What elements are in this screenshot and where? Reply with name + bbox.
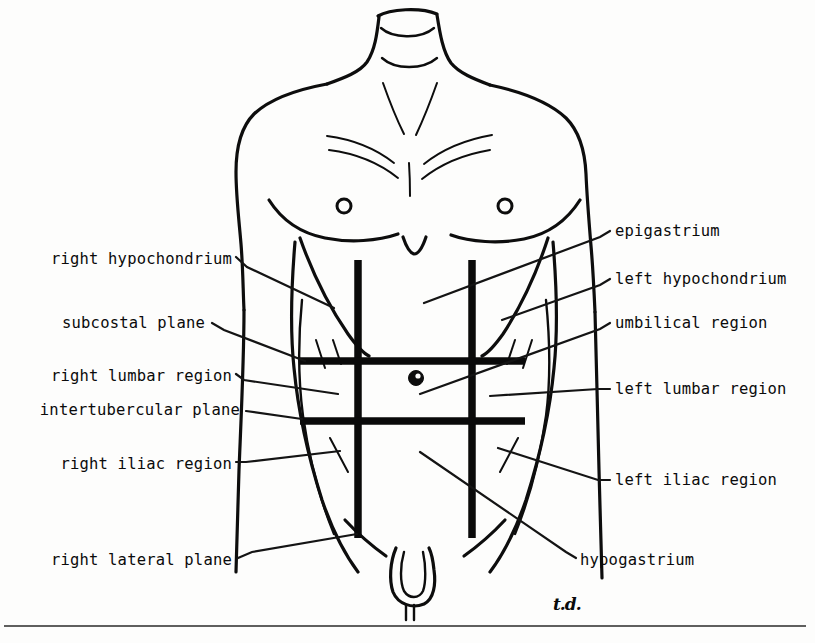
nipple-right-icon	[337, 199, 351, 213]
diagram-canvas: right hypochondrium subcostal plane righ…	[0, 0, 815, 643]
neck-tendon-left	[416, 83, 437, 135]
clavicle-right-upper	[327, 136, 394, 163]
label-right-iliac-region: right iliac region	[60, 457, 232, 473]
planes-grid-group	[300, 260, 525, 538]
umbilicus-highlight	[415, 373, 420, 378]
label-umbilical-region: umbilical region	[615, 316, 768, 332]
costal-margin-left	[482, 238, 548, 356]
flank-left-outline-b	[515, 300, 549, 534]
neck-tendon-right	[383, 83, 404, 134]
arm-left-outline	[595, 312, 602, 578]
label-right-hypochondrium: right hypochondrium	[51, 252, 232, 268]
mouth-line	[381, 28, 434, 36]
label-left-hypochondrium: left hypochondrium	[615, 272, 787, 288]
flank-right-outline-b	[299, 300, 334, 534]
clavicle-left-lower	[422, 150, 490, 179]
shoulder-right-outline	[236, 84, 327, 310]
xiphoid-notch	[403, 237, 426, 254]
leader-hypogastrium	[420, 452, 576, 558]
leader-intertubercular-plane	[246, 411, 302, 419]
neck-left-outline	[327, 17, 379, 84]
label-left-lumbar-region: left lumbar region	[615, 382, 787, 398]
umbilicus-icon	[409, 371, 424, 386]
genital-inner-outline	[401, 552, 425, 597]
leader-left-iliac-region	[498, 448, 610, 480]
pectoral-left-curve	[451, 200, 580, 242]
clavicle-right-lower	[329, 150, 398, 178]
arm-right-outline	[236, 310, 244, 572]
label-epigastrium: epigastrium	[615, 224, 720, 240]
label-right-lumbar-region: right lumbar region	[51, 369, 232, 385]
torso-outline-group	[236, 10, 602, 620]
label-subcostal-plane: subcostal plane	[62, 316, 205, 332]
chin-outline	[378, 10, 437, 16]
leader-right-lumbar-region	[236, 374, 338, 394]
sternal-notch	[382, 58, 437, 67]
leader-right-iliac-region	[236, 451, 340, 462]
label-intertubercular-plane: intertubercular plane	[40, 403, 240, 419]
label-hypogastrium: hypogastrium	[580, 553, 694, 569]
umbilicus-group	[409, 371, 424, 386]
label-right-lateral-plane: right lateral plane	[51, 553, 232, 569]
pectoral-right-curve	[269, 200, 398, 241]
artist-signature: t.d.	[553, 594, 581, 614]
nipple-left-icon	[498, 199, 512, 213]
inguinal-fold-right	[345, 520, 386, 556]
hatch-right-lower	[330, 438, 348, 472]
leader-right-lateral-plane	[238, 534, 357, 558]
sternum-midline	[409, 163, 410, 196]
label-left-iliac-region: left iliac region	[615, 473, 777, 489]
hatch-left-lower	[500, 438, 518, 472]
clavicle-left-upper	[424, 135, 492, 164]
neck-right-outline	[437, 15, 490, 85]
